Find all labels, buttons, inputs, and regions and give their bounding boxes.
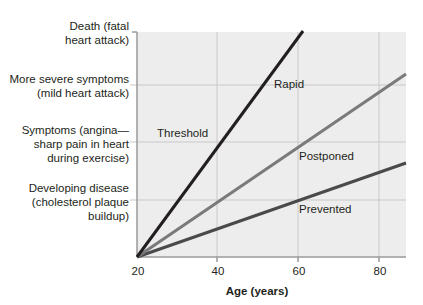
y-label-line: Death (fatal bbox=[65, 19, 129, 33]
y-label-line: sharp pain in heart bbox=[22, 137, 129, 151]
y-label-death: Death (fatal heart attack) bbox=[65, 19, 129, 47]
y-label-developing: Developing disease (cholesterol plaque b… bbox=[29, 181, 129, 223]
x-tick-20: 20 bbox=[132, 265, 145, 277]
y-label-line: (cholesterol plaque bbox=[29, 195, 129, 209]
y-label-line: (mild heart attack) bbox=[9, 86, 129, 100]
x-tick-40: 40 bbox=[212, 265, 225, 277]
prevented-label: Prevented bbox=[299, 203, 351, 215]
y-label-severe: More severe symptoms (mild heart attack) bbox=[9, 72, 129, 100]
y-label-line: during exercise) bbox=[22, 151, 129, 165]
x-tick-80: 80 bbox=[374, 265, 387, 277]
threshold-label: Threshold bbox=[157, 127, 208, 139]
y-label-line: Developing disease bbox=[29, 181, 129, 195]
y-label-line: buildup) bbox=[29, 209, 129, 223]
y-label-line: Symptoms (angina— bbox=[22, 123, 129, 137]
plot-area bbox=[137, 32, 406, 257]
y-label-line: heart attack) bbox=[65, 33, 129, 47]
postponed-label: Postponed bbox=[299, 150, 354, 162]
x-axis-title: Age (years) bbox=[226, 285, 289, 297]
y-label-line: More severe symptoms bbox=[9, 72, 129, 86]
x-tick-60: 60 bbox=[293, 265, 306, 277]
rapid-label: Rapid bbox=[274, 78, 304, 90]
y-label-symptoms: Symptoms (angina— sharp pain in heart du… bbox=[22, 123, 129, 165]
